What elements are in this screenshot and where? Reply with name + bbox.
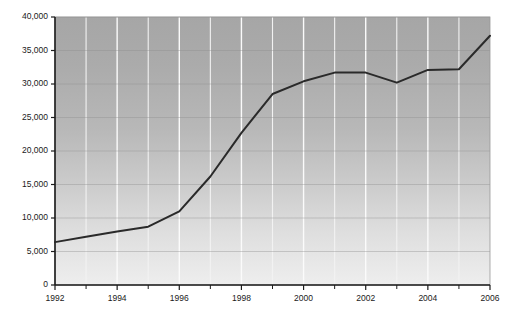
y-axis-tick-label: 20,000 xyxy=(22,145,48,155)
x-axis-tick-label: 1998 xyxy=(232,293,251,303)
x-axis-tick-label: 1996 xyxy=(170,293,189,303)
x-axis-tick-label: 2000 xyxy=(294,293,313,303)
y-axis-tick-label: 5,000 xyxy=(27,246,49,256)
x-axis-tick-label: 1994 xyxy=(108,293,127,303)
chart-container: 05,00010,00015,00020,00025,00030,00035,0… xyxy=(0,0,516,312)
line-chart: 05,00010,00015,00020,00025,00030,00035,0… xyxy=(0,0,516,312)
y-axis-tick-label: 15,000 xyxy=(22,179,48,189)
x-axis-tick-label: 2002 xyxy=(356,293,375,303)
y-axis-tick-label: 35,000 xyxy=(22,45,48,55)
x-axis-tick-label: 2006 xyxy=(481,293,500,303)
y-axis-tick-labels: 05,00010,00015,00020,00025,00030,00035,0… xyxy=(22,11,48,289)
y-axis-tick-label: 10,000 xyxy=(22,212,48,222)
x-axis-tick-label: 1992 xyxy=(46,293,65,303)
y-axis-tick-label: 0 xyxy=(43,279,48,289)
y-axis-tick-label: 30,000 xyxy=(22,78,48,88)
x-axis-tick-label: 2004 xyxy=(418,293,437,303)
y-axis-tick-label: 25,000 xyxy=(22,112,48,122)
y-axis-tick-label: 40,000 xyxy=(22,11,48,21)
